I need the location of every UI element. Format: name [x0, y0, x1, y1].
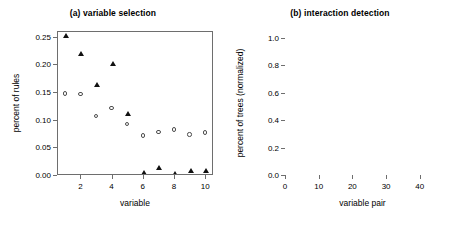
x-tick-mark [420, 175, 421, 179]
y-tick-label: 0.6 [247, 88, 279, 97]
x-tick-label: 2 [78, 182, 82, 191]
x-tick-label: 8 [172, 182, 176, 191]
x-tick-label: 10 [201, 182, 210, 191]
x-tick-mark [174, 175, 175, 179]
x-tick-mark [112, 175, 113, 179]
y-tick-label: 0.15 [19, 87, 51, 96]
y-tick-label: 0.0 [247, 171, 279, 180]
y-tick-label: 0.25 [19, 32, 51, 41]
panel-a-plot-area [58, 32, 212, 174]
data-point [156, 130, 160, 134]
panel-b-y-axis-title: percent of trees (normalized) [235, 49, 245, 158]
y-tick-label: 0.05 [19, 143, 51, 152]
y-tick-mark [281, 148, 285, 149]
panel-variable-selection: (a) variable selection percent of rules … [0, 0, 226, 227]
data-point [63, 91, 67, 95]
y-tick-label: 0.4 [247, 116, 279, 125]
data-point [78, 92, 82, 96]
data-point [78, 51, 84, 56]
x-tick-label: 30 [382, 182, 391, 191]
y-tick-label: 0.2 [247, 143, 279, 152]
x-tick-label: 4 [109, 182, 113, 191]
data-point [203, 130, 207, 134]
x-tick-label: 6 [141, 182, 145, 191]
data-point [172, 171, 178, 174]
y-tick-mark [53, 175, 57, 176]
panel-a-title: (a) variable selection [0, 8, 226, 18]
y-tick-mark [281, 38, 285, 39]
y-tick-label: 1.0 [247, 33, 279, 42]
panel-a-x-axis-title: variable [120, 198, 150, 208]
y-tick-label: 0.00 [19, 171, 51, 180]
y-tick-label: 0.8 [247, 61, 279, 70]
data-point [141, 133, 145, 137]
panel-interaction-detection: (b) interaction detection percent of tre… [227, 0, 453, 227]
x-tick-label: 40 [415, 182, 424, 191]
y-tick-mark [281, 65, 285, 66]
y-tick-mark [281, 93, 285, 94]
data-point [109, 106, 113, 110]
y-tick-mark [281, 120, 285, 121]
x-tick-label: 10 [314, 182, 323, 191]
data-point [141, 170, 147, 174]
figure-root: (a) variable selection percent of rules … [0, 0, 453, 227]
data-point [94, 82, 100, 87]
y-tick-label: 0.20 [19, 60, 51, 69]
x-tick-mark [80, 175, 81, 179]
x-tick-mark [352, 175, 353, 179]
x-tick-label: 20 [348, 182, 357, 191]
data-point [94, 114, 98, 118]
panel-a-plot-frame [57, 31, 213, 175]
x-tick-mark [143, 175, 144, 179]
data-point [110, 61, 116, 66]
panel-b-title: (b) interaction detection [227, 8, 453, 18]
x-tick-label: 0 [283, 182, 287, 191]
panel-b-x-axis-title: variable pair [339, 198, 385, 208]
data-point [156, 165, 162, 170]
x-tick-mark [386, 175, 387, 179]
x-tick-mark [285, 175, 286, 179]
x-tick-mark [319, 175, 320, 179]
x-tick-mark [205, 175, 206, 179]
data-point [203, 168, 209, 173]
data-point [63, 33, 69, 38]
data-point [172, 127, 176, 131]
data-point [187, 132, 191, 136]
data-point [125, 122, 129, 126]
data-point [188, 168, 194, 173]
data-point [125, 111, 131, 116]
y-tick-label: 0.10 [19, 115, 51, 124]
